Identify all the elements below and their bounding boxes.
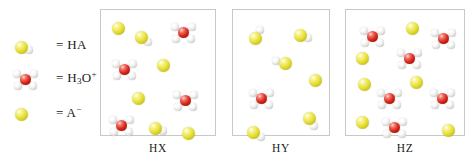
atom-acid-yellow (249, 32, 262, 45)
atom-acid-yellow (182, 127, 195, 140)
atom-hydrogen (171, 23, 179, 31)
legend-glyph-anion (10, 97, 58, 131)
legend-equals-hydronium: = (56, 70, 64, 85)
legend: = HA = H3O+ = A− (0, 0, 100, 165)
atom-oxygen-red (256, 93, 267, 104)
atom-acid-yellow (303, 112, 316, 125)
atom-oxygen-red (438, 33, 449, 44)
atom-hydrogen (394, 89, 402, 97)
atom-oxygen-red (20, 74, 31, 85)
legend-item-ha: = HA (0, 30, 100, 64)
atom-oxygen-red (367, 31, 378, 42)
atom-oxygen-red (116, 120, 127, 131)
atom-hydrogen (188, 23, 196, 31)
atom-oxygen-red (389, 122, 400, 133)
atom-hydrogen (30, 70, 38, 78)
legend-formula-anion: A− (66, 105, 81, 120)
atom-hydrogen (377, 89, 385, 97)
atom-acid-yellow (356, 52, 369, 65)
atom-hydrogen (126, 116, 134, 124)
legend-formula-ha: HA (67, 37, 86, 52)
atom-hydrogen (249, 89, 257, 97)
atom-acid-yellow (442, 124, 455, 137)
atom-hydrogen (414, 49, 422, 57)
panel-label-hx: HX (100, 142, 216, 154)
atom-hydrogen (430, 89, 438, 97)
atom-hydrogen (382, 118, 390, 126)
panel-hy (232, 9, 330, 136)
atom-acid-yellow (358, 78, 371, 91)
panel-hx (100, 9, 216, 136)
atom-hydrogen (266, 89, 274, 97)
legend-glyph-hydronium (10, 62, 58, 96)
atom-hydrogen (109, 116, 117, 124)
atom-hydrogen (447, 89, 455, 97)
atom-hydrogen (190, 91, 198, 99)
atom-acid-yellow (410, 76, 423, 89)
atom-acid-yellow (279, 57, 292, 70)
legend-formula-hydronium: H3O+ (67, 70, 97, 85)
legend-label-anion: = A− (56, 104, 82, 121)
atom-acid-yellow (309, 74, 322, 87)
atom-acid-yellow (112, 22, 125, 35)
atom-oxygen-red (180, 95, 191, 106)
atom-oxygen-red (404, 53, 415, 64)
atom-oxygen-red (384, 93, 395, 104)
panel-label-hy: HY (232, 142, 330, 154)
atom-acid-yellow (135, 31, 148, 44)
atom-acid-yellow (356, 116, 369, 129)
legend-item-anion: = A− (0, 97, 100, 131)
legend-equals-ha: = (56, 37, 64, 52)
panel-hz (345, 9, 465, 136)
atom-hydrogen (431, 29, 439, 37)
atom-hydrogen (112, 60, 120, 68)
atom-hydrogen (448, 29, 456, 37)
atom-hydrogen (129, 60, 137, 68)
atom-acid-yellow (15, 108, 28, 121)
atom-hydrogen (399, 118, 407, 126)
legend-item-hydronium: = H3O+ (0, 62, 100, 96)
legend-glyph-ha (10, 30, 58, 64)
legend-label-hydronium: = H3O+ (56, 69, 97, 86)
atom-acid-yellow (294, 29, 307, 42)
atom-hydrogen (13, 70, 21, 78)
atom-acid-yellow (132, 92, 145, 105)
atom-acid-yellow (149, 122, 162, 135)
atom-acid-yellow (157, 59, 170, 72)
atom-oxygen-red (178, 27, 189, 38)
atom-oxygen-red (119, 64, 130, 75)
atom-acid-yellow (15, 41, 28, 54)
atom-oxygen-red (437, 93, 448, 104)
legend-label-ha: = HA (56, 37, 87, 53)
legend-equals-anion: = (56, 105, 64, 120)
atom-acid-yellow (247, 126, 260, 139)
atom-hydrogen (173, 91, 181, 99)
atom-hydrogen (377, 27, 385, 35)
figure-canvas: = HA = H3O+ = A− HX HY HZ (0, 0, 465, 165)
atom-hydrogen (360, 27, 368, 35)
atom-acid-yellow (406, 22, 419, 35)
panel-label-hz: HZ (345, 142, 465, 154)
atom-hydrogen (397, 49, 405, 57)
